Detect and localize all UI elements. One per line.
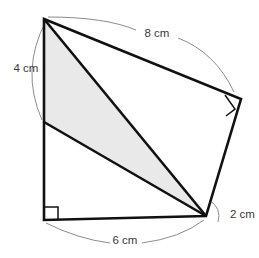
dimension-label-top: 8 cm xyxy=(145,27,170,39)
geometry-diagram: 8 cm 4 cm 2 cm 6 cm xyxy=(0,0,259,258)
dimension-label-right: 2 cm xyxy=(230,208,255,220)
dimension-label-left: 4 cm xyxy=(14,62,39,74)
geometry-figure-container: 8 cm 4 cm 2 cm 6 cm xyxy=(0,0,259,258)
dimension-label-bottom: 6 cm xyxy=(113,234,138,246)
